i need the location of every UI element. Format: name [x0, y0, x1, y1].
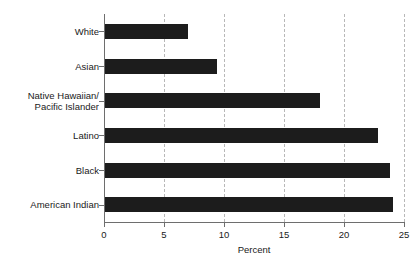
- gridline-10: [224, 14, 225, 222]
- y-tick: [99, 31, 104, 32]
- y-tick: [99, 205, 104, 206]
- x-tick-label-5: 5: [161, 229, 166, 240]
- gridline-5: [164, 14, 165, 222]
- bar: [104, 197, 393, 212]
- y-axis-category-label: White: [3, 26, 99, 37]
- gridline-25: [404, 14, 405, 222]
- x-tick-25: [404, 222, 405, 227]
- bar-chart: WhiteAsianNative Hawaiian/ Pacific Islan…: [0, 0, 419, 264]
- y-tick: [99, 170, 104, 171]
- bar: [104, 163, 390, 178]
- x-tick-15: [284, 222, 285, 227]
- gridline-15: [284, 14, 285, 222]
- y-axis-category-label: Black: [3, 165, 99, 176]
- x-tick-label-15: 15: [279, 229, 290, 240]
- x-axis-line: [104, 222, 404, 223]
- x-tick-label-0: 0: [101, 229, 106, 240]
- x-tick-label-20: 20: [339, 229, 350, 240]
- y-axis-category-label: Asian: [3, 61, 99, 72]
- x-tick-label-10: 10: [219, 229, 230, 240]
- x-tick-20: [344, 222, 345, 227]
- x-tick-10: [224, 222, 225, 227]
- bar: [104, 128, 378, 143]
- y-tick: [99, 66, 104, 67]
- x-axis-title: Percent: [104, 244, 404, 255]
- x-tick-0: [104, 222, 105, 227]
- x-tick-label-25: 25: [399, 229, 410, 240]
- y-tick: [99, 101, 104, 102]
- bar: [104, 24, 188, 39]
- bar: [104, 59, 217, 74]
- y-tick: [99, 135, 104, 136]
- y-axis-category-label: American Indian: [3, 199, 99, 210]
- y-axis-labels: WhiteAsianNative Hawaiian/ Pacific Islan…: [0, 0, 99, 264]
- bar: [104, 93, 320, 108]
- x-tick-5: [164, 222, 165, 227]
- y-axis-category-label: Native Hawaiian/ Pacific Islander: [3, 90, 99, 112]
- plot-area: [104, 14, 404, 222]
- y-axis-line: [104, 14, 105, 222]
- gridline-20: [344, 14, 345, 222]
- y-axis-category-label: Latino: [3, 130, 99, 141]
